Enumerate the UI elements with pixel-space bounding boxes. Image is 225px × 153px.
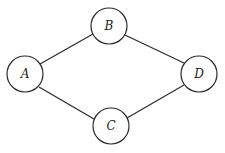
node-c: C [93,108,129,144]
edge-a-c [39,87,94,119]
node-c-label: C [106,119,115,133]
node-d: D [181,56,217,92]
edge-b-d [125,35,184,63]
edges [39,34,184,119]
node-d-label: D [193,67,204,81]
node-a-label: A [20,67,30,81]
edge-c-d [127,85,184,118]
node-b-label: B [104,19,114,33]
edge-a-b [40,34,93,64]
node-a: A [7,56,43,92]
node-b: B [91,8,127,44]
graph-diagram: A B C D [0,0,225,153]
